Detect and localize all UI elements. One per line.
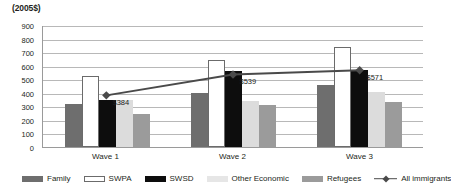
bar-other[interactable]	[368, 92, 385, 147]
x-axis-category: Wave 3	[296, 152, 423, 161]
bar-refugees[interactable]	[133, 114, 150, 147]
bar-other[interactable]	[116, 100, 133, 147]
legend-swatch-line-icon	[374, 175, 397, 182]
bar-family[interactable]	[191, 93, 208, 147]
y-axis-unit-label: (2005$)	[12, 3, 41, 13]
legend-label: SWPA	[109, 174, 132, 183]
x-axis-category: Wave 2	[169, 152, 296, 161]
legend-label: Other Economic	[232, 174, 289, 183]
line-point-label: $539	[240, 76, 257, 85]
bar-other[interactable]	[242, 101, 259, 147]
y-axis-tick: 400	[21, 89, 34, 98]
legend-item-other[interactable]: Other Economic	[207, 174, 289, 183]
y-axis-tick: 500	[21, 76, 34, 85]
legend-swatch-refugees-icon	[302, 176, 323, 182]
line-point-label: $384	[113, 97, 130, 106]
y-axis-tick: 800	[21, 35, 34, 44]
legend-swatch-family-icon	[22, 176, 43, 182]
legend-swatch-other-icon	[207, 176, 228, 182]
bar-swpa[interactable]	[82, 76, 99, 147]
y-axis-tick: 200	[21, 116, 34, 125]
y-axis-tick: 300	[21, 103, 34, 112]
legend-swatch-swpa-icon	[84, 176, 105, 182]
y-axis-tick: 100	[21, 130, 34, 139]
legend-item-line[interactable]: All immigrants	[374, 174, 451, 183]
bar-refugees[interactable]	[385, 102, 402, 147]
x-axis-category-labels: Wave 1Wave 2Wave 3	[42, 152, 423, 161]
line-point-label: $571	[367, 72, 384, 81]
legend-label: SWSD	[170, 174, 194, 183]
bar-refugees[interactable]	[259, 105, 276, 147]
legend-swatch-swsd-icon	[145, 176, 166, 182]
bar-groups	[44, 26, 423, 147]
y-axis-tick-labels: 9008007006005004003002001000	[0, 26, 38, 148]
chart-legend: FamilySWPASWSDOther EconomicRefugeesAll …	[22, 174, 422, 183]
legend-item-family[interactable]: Family	[22, 174, 71, 183]
bar-swpa[interactable]	[334, 47, 351, 147]
bar-family[interactable]	[317, 85, 334, 147]
legend-label: Family	[47, 174, 71, 183]
bar-swsd[interactable]	[351, 70, 368, 147]
bar-family[interactable]	[65, 104, 82, 147]
y-axis-tick: 900	[21, 22, 34, 31]
legend-item-swsd[interactable]: SWSD	[145, 174, 194, 183]
y-axis-tick: 0	[30, 144, 34, 153]
legend-label: All immigrants	[401, 174, 451, 183]
bar-swsd[interactable]	[99, 100, 116, 147]
x-axis-category: Wave 1	[42, 152, 169, 161]
legend-label: Refugees	[327, 174, 361, 183]
legend-item-swpa[interactable]: SWPA	[84, 174, 132, 183]
y-axis-tick: 600	[21, 62, 34, 71]
y-axis-tick: 700	[21, 49, 34, 58]
plot-area: $384$539$571	[42, 26, 423, 148]
bar-group	[44, 26, 170, 147]
bar-group	[170, 26, 296, 147]
bar-group	[297, 26, 423, 147]
bar-swpa[interactable]	[208, 60, 225, 147]
legend-item-refugees[interactable]: Refugees	[302, 174, 361, 183]
